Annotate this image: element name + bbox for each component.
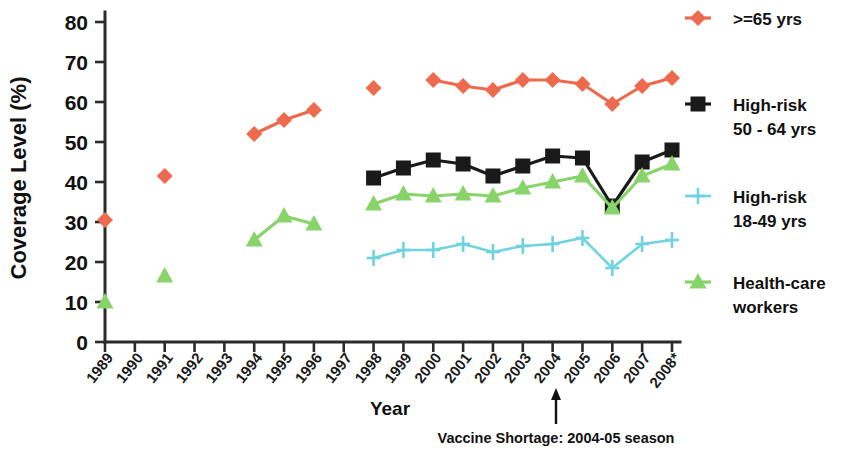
x-tick-label: 2006 — [590, 349, 624, 386]
legend-item-4[interactable]: Health-careworkers — [685, 273, 826, 317]
diamond-data-point — [634, 78, 650, 94]
legend-label-line2: 50 - 64 yrs — [733, 120, 816, 139]
x-tick-label: 2008* — [646, 349, 684, 390]
square-data-point — [691, 97, 706, 112]
y-axis-title-text: Coverage Level (%) — [6, 77, 31, 280]
diamond-data-point — [246, 126, 262, 142]
diamond-data-point — [157, 168, 173, 184]
y-axis-ticks: 01020304050607080 — [65, 11, 105, 354]
x-tick-label: 1999 — [381, 349, 415, 386]
plus-data-point — [426, 242, 440, 258]
legend-label: Health-care — [733, 274, 826, 293]
legend-label: >=65 yrs — [733, 10, 802, 29]
plus-data-point — [486, 244, 500, 260]
x-axis-title-text: Year — [370, 398, 411, 419]
square-data-point — [485, 169, 500, 184]
square-data-point — [545, 149, 560, 164]
plus-data-point — [396, 242, 410, 258]
chart-legend: >=65 yrsHigh-risk50 - 64 yrsHigh-risk18-… — [685, 10, 826, 317]
x-tick-label: 1990 — [112, 349, 146, 386]
data-series-layer — [97, 70, 681, 309]
square-data-point — [456, 157, 471, 172]
x-tick-label: 1994 — [232, 349, 266, 386]
x-tick-label: 2004 — [530, 349, 564, 386]
plus-marker-icon — [691, 188, 705, 204]
plus-data-point — [456, 236, 470, 252]
y-tick-label: 60 — [65, 91, 88, 114]
y-tick-label: 50 — [65, 131, 88, 154]
x-tick-label: 2005 — [560, 349, 594, 386]
diamond-marker-icon — [690, 10, 706, 26]
vaccine-shortage-annotation: Vaccine Shortage: 2004-05 season — [438, 430, 675, 446]
legend-label-line2: workers — [732, 298, 798, 317]
plus-data-point — [691, 188, 705, 204]
y-tick-label: 10 — [65, 291, 88, 314]
diamond-data-point — [545, 72, 561, 88]
data-series-3 — [367, 230, 679, 276]
x-tick-label: 1993 — [202, 349, 236, 386]
plus-data-point — [546, 236, 560, 252]
diamond-data-point — [455, 78, 471, 94]
diamond-data-point — [690, 10, 706, 26]
x-axis-tick-labels: 1989199019911992199319941995199619971998… — [82, 349, 683, 391]
square-data-point — [515, 159, 530, 174]
chart-canvas: Coverage Level (%) 01020304050607080 198… — [0, 0, 861, 452]
x-tick-label: 1992 — [172, 349, 206, 386]
triangle-data-point — [455, 185, 472, 201]
x-tick-label: 2001 — [441, 349, 475, 386]
x-tick-label: 1995 — [261, 349, 295, 386]
plus-data-point — [516, 238, 530, 254]
diamond-data-point — [515, 72, 531, 88]
influenza-vaccination-coverage-chart: Coverage Level (%) 01020304050607080 198… — [0, 0, 861, 452]
series-line — [374, 150, 672, 206]
diamond-data-point — [664, 70, 680, 86]
legend-item-1[interactable]: >=65 yrs — [685, 10, 802, 29]
square-data-point — [426, 153, 441, 168]
triangle-data-point — [156, 267, 173, 283]
legend-label-line2: 18-49 yrs — [733, 212, 807, 231]
x-tick-label: 1996 — [291, 349, 325, 386]
y-tick-label: 70 — [65, 51, 88, 74]
data-series-4 — [97, 155, 681, 309]
diamond-data-point — [366, 80, 382, 96]
y-tick-label: 30 — [65, 211, 88, 234]
x-tick-label: 1997 — [321, 349, 355, 386]
legend-label: High-risk — [733, 96, 807, 115]
legend-item-3[interactable]: High-risk18-49 yrs — [685, 188, 807, 231]
square-data-point — [366, 171, 381, 186]
square-data-point — [575, 151, 590, 166]
plus-data-point — [367, 250, 381, 266]
diamond-data-point — [276, 112, 292, 128]
y-tick-label: 0 — [76, 331, 88, 354]
diamond-data-point — [97, 212, 113, 228]
diamond-data-point — [485, 82, 501, 98]
vaccine-shortage-arrow-icon — [551, 388, 561, 424]
x-tick-label: 1998 — [351, 349, 385, 386]
square-data-point — [396, 161, 411, 176]
y-tick-label: 20 — [65, 251, 88, 274]
triangle-data-point — [395, 185, 412, 201]
diamond-data-point — [425, 72, 441, 88]
y-tick-label: 40 — [65, 171, 88, 194]
diamond-data-point — [306, 102, 322, 118]
x-tick-label: 2000 — [411, 349, 445, 386]
plus-data-point — [665, 232, 679, 248]
data-series-2 — [366, 143, 679, 214]
triangle-data-point — [276, 207, 293, 223]
x-tick-label: 2003 — [500, 349, 534, 386]
y-tick-label: 80 — [65, 11, 88, 34]
legend-item-2[interactable]: High-risk50 - 64 yrs — [685, 96, 816, 139]
x-tick-label: 1991 — [142, 349, 176, 386]
square-marker-icon — [691, 97, 706, 112]
x-tick-label: 1989 — [82, 349, 116, 386]
legend-label: High-risk — [733, 188, 807, 207]
x-tick-label: 2002 — [470, 349, 504, 386]
data-series-1 — [97, 70, 680, 228]
y-axis-title: Coverage Level (%) — [6, 77, 31, 280]
